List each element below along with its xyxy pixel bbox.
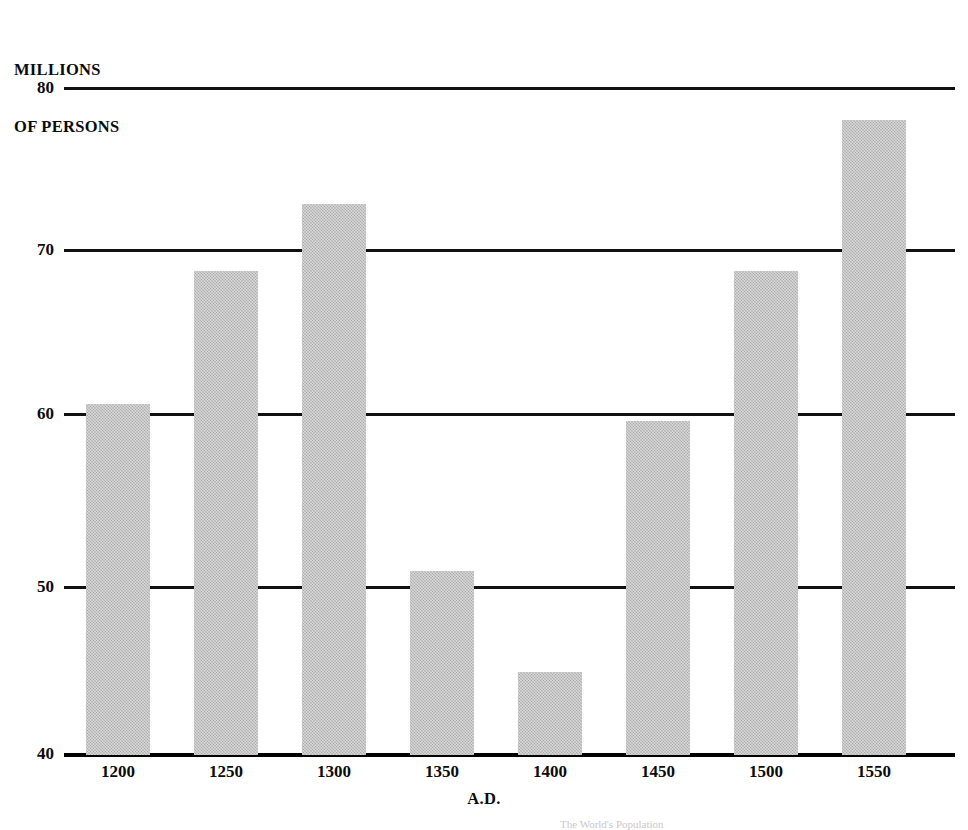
x-tick-label-1550: 1550 (819, 762, 929, 782)
x-tick-label-1450: 1450 (603, 762, 713, 782)
x-tick-label-1300: 1300 (279, 762, 389, 782)
bar-1350 (410, 571, 474, 755)
bar-1300 (302, 204, 366, 755)
x-tick-label-1500: 1500 (711, 762, 821, 782)
x-tick-label-1200: 1200 (63, 762, 173, 782)
x-tick-label-1250: 1250 (171, 762, 281, 782)
source-caption: The World's Population (560, 818, 968, 830)
bar-1200 (86, 404, 150, 755)
x-axis-title: A.D. (0, 790, 968, 808)
bar-1250 (194, 271, 258, 755)
bar-1550 (842, 120, 906, 755)
x-tick-label-1350: 1350 (387, 762, 497, 782)
bar-1400 (518, 672, 582, 756)
bar-1500 (734, 271, 798, 755)
x-tick-label-1400: 1400 (495, 762, 605, 782)
bar-1450 (626, 421, 690, 755)
